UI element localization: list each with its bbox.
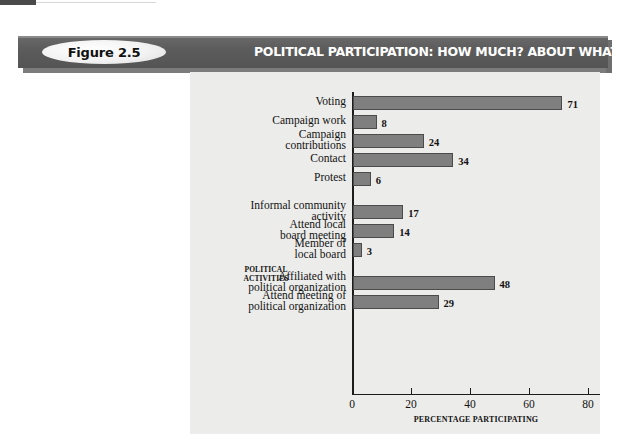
plot-area: 71Voting8Campaign work24Campaign contrib…	[352, 92, 600, 395]
bar-value-label: 29	[444, 298, 455, 309]
bar-value-label: 48	[500, 279, 511, 290]
x-tick-label: 40	[464, 398, 476, 410]
figure-number-badge: Figure 2.5	[42, 40, 166, 64]
category-label: Voting	[176, 96, 346, 108]
x-tick-mark	[411, 388, 412, 395]
x-axis-line	[352, 394, 600, 396]
bar-value-label: 8	[382, 118, 387, 129]
bar	[353, 224, 394, 238]
page-edge-rule	[36, 2, 156, 3]
category-label: Protest	[176, 172, 346, 184]
bar-value-label: 3	[367, 246, 372, 257]
x-tick-label: 80	[582, 398, 594, 410]
category-label: Campaign contributions	[176, 129, 346, 152]
bar	[353, 153, 453, 167]
banner-bar: Figure 2.5 POLITICAL PARTICIPATION: HOW …	[18, 36, 608, 68]
figure-title: POLITICAL PARTICIPATION: HOW MUCH? ABOUT…	[254, 44, 626, 59]
x-tick-label: 0	[349, 398, 355, 410]
x-axis-title: PERCENTAGE PARTICIPATING	[352, 415, 600, 424]
bar	[353, 134, 424, 148]
x-tick-label: 60	[523, 398, 535, 410]
x-tick-label: 20	[405, 398, 417, 410]
x-tick-mark	[588, 388, 589, 395]
category-label: Attend meeting of political organization	[176, 290, 346, 313]
page-edge-artifact	[0, 0, 36, 5]
bar	[353, 243, 362, 257]
bar-value-label: 34	[458, 156, 469, 167]
bar-value-label: 71	[567, 99, 578, 110]
bar	[353, 172, 371, 186]
figure-banner: Figure 2.5 POLITICAL PARTICIPATION: HOW …	[18, 36, 612, 72]
bar-value-label: 14	[399, 227, 410, 238]
category-label: Contact	[176, 153, 346, 165]
bar	[353, 205, 403, 219]
bar	[353, 115, 377, 129]
category-label: Member of local board	[176, 238, 346, 261]
bar	[353, 295, 439, 309]
banner-highlight	[18, 36, 608, 38]
x-tick-mark	[470, 388, 471, 395]
bar	[353, 276, 495, 290]
bar	[353, 96, 562, 110]
bar-value-label: 24	[429, 137, 440, 148]
category-label: Campaign work	[176, 115, 346, 127]
bar-value-label: 17	[408, 208, 419, 219]
figure-number-label: Figure 2.5	[68, 45, 141, 60]
x-tick-mark	[529, 388, 530, 395]
bar-value-label: 6	[376, 175, 381, 186]
